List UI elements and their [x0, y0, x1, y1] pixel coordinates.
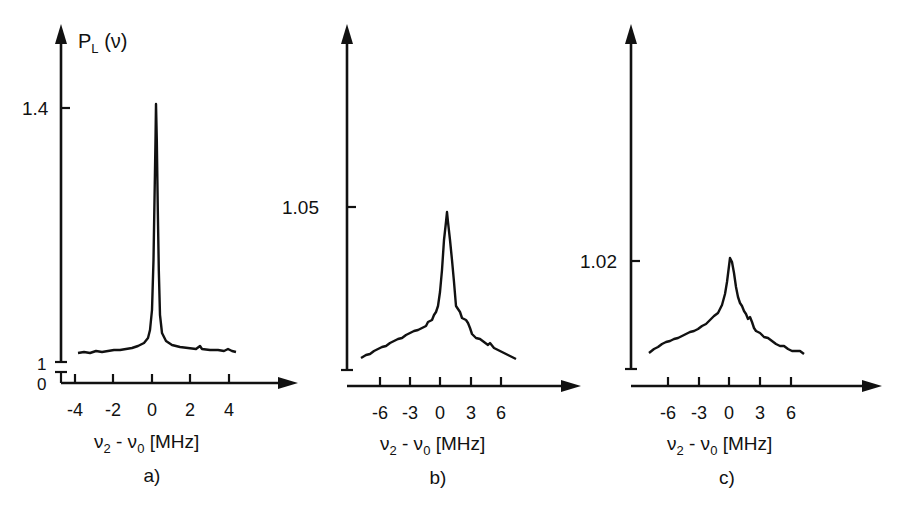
x-tick-label: -3: [691, 403, 707, 423]
y-axis-label-a: PL (ν): [78, 30, 127, 56]
x-tick-label: 6: [496, 403, 506, 423]
x-tick-label: 0: [724, 403, 734, 423]
curve-a: [78, 104, 236, 353]
x-tick-label: 4: [224, 400, 234, 420]
curve-c: [649, 258, 804, 354]
panel-b: 1.05 -6 -3 0 3 6 ν2 - ν0 [MHz] b): [282, 24, 581, 488]
x-tick-label: 2: [185, 400, 195, 420]
y-tick-label: 1.02: [580, 251, 617, 272]
x-tick-label: 0: [147, 400, 157, 420]
panel-caption-b: b): [430, 467, 447, 488]
x-axis-arrow-icon: [278, 377, 298, 389]
y-tick-label: 1.05: [282, 197, 319, 218]
y-tick-label: 0: [37, 375, 46, 394]
x-tick-label: -3: [402, 403, 418, 423]
y-axis-arrow-icon: [341, 24, 353, 44]
x-tick-label: -4: [67, 400, 83, 420]
x-tick-label: -6: [372, 403, 388, 423]
x-axis-arrow-icon: [862, 380, 882, 392]
panel-caption-c: c): [719, 467, 735, 488]
x-axis-label-c: ν2 - ν0 [MHz]: [667, 433, 772, 458]
x-tick-label: 3: [466, 403, 476, 423]
x-tick-label: -2: [105, 400, 121, 420]
x-axis-label-a: ν2 - ν0 [MHz]: [94, 431, 199, 456]
x-tick-label: -6: [660, 403, 676, 423]
x-tick-label: 3: [755, 403, 765, 423]
x-axis-arrow-icon: [561, 380, 581, 392]
panel-caption-a: a): [144, 465, 161, 486]
x-tick-label: 6: [786, 403, 796, 423]
x-tick-label: 0: [435, 403, 445, 423]
y-axis-arrow-icon: [55, 24, 67, 44]
y-tick-label: 1.4: [22, 98, 49, 119]
x-axis-label-b: ν2 - ν0 [MHz]: [380, 433, 485, 458]
y-axis-arrow-icon: [625, 24, 637, 44]
figure: PL (ν) 1.4 1 0 -4 -2 0 2 4 ν2 - ν0 [MHz]…: [0, 0, 898, 508]
panel-c: 1.02 -6 -3 0 3 6 ν2 - ν0 [MHz] c): [580, 24, 882, 488]
curve-b: [361, 212, 516, 359]
panel-a: PL (ν) 1.4 1 0 -4 -2 0 2 4 ν2 - ν0 [MHz]…: [22, 24, 298, 486]
y-tick-label: 1: [37, 355, 46, 374]
